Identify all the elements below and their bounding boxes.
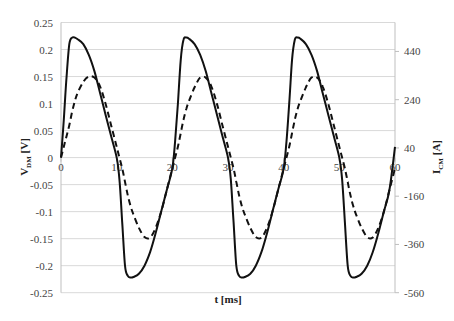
y-tick-label: -0.25 [30,287,53,299]
y2-tick-label: -560 [404,287,425,299]
y2-tick-label: -160 [404,190,425,202]
y-axis-title: VDM [V] [18,138,33,176]
y2-tick-label: -360 [404,238,425,250]
y-axis-ticks: 0.250.20.150.10.050-0.05-0.1-0.15-0.2-0.… [30,17,53,299]
y-tick-label: 0.2 [39,44,53,56]
x-tick-label: 0 [58,161,64,173]
line-chart: 0.250.20.150.10.050-0.05-0.1-0.15-0.2-0.… [0,0,454,321]
y-tick-label: 0.25 [34,17,54,29]
y-tick-label: 0.15 [34,71,54,83]
y-tick-label: -0.05 [30,179,53,191]
y-tick-label: 0.1 [39,98,53,110]
svg-text:VDM [V]: VDM [V] [18,138,33,176]
y2-tick-label: 440 [404,45,421,57]
y-tick-label: -0.15 [30,233,53,245]
y-tick-label: 0 [48,152,54,164]
x-axis-title: t [ms] [214,293,241,305]
svg-text:ICM [A]: ICM [A] [430,140,445,174]
y-tick-label: 0.05 [34,125,54,137]
y-tick-label: -0.2 [36,260,53,272]
y2-tick-label: 240 [404,94,421,106]
y-tick-label: -0.1 [36,206,53,218]
y2-axis-title: ICM [A] [430,140,445,174]
y2-tick-label: 40 [404,142,416,154]
